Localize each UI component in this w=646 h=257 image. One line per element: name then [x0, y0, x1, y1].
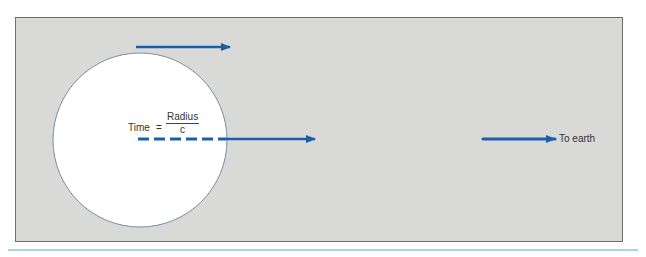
equation-denominator: c: [166, 124, 199, 135]
light-travel-diagram: [0, 0, 646, 257]
equation-equals: =: [156, 122, 162, 133]
to-earth-label: To earth: [559, 133, 595, 144]
equation-numerator: Radius: [166, 111, 199, 124]
equation-lhs: Time: [128, 122, 150, 133]
bottom-rule: [8, 249, 638, 251]
equation-fraction: Radius c: [166, 111, 199, 135]
